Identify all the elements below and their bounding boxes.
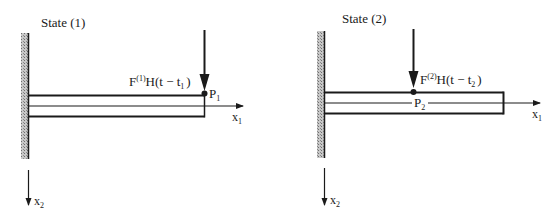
force-label: F(2)H(t − t2) <box>420 72 482 89</box>
cantilever-reciprocity-diagram: State (1) x1 x2 F(1)H(t − t1) P1 State (… <box>0 0 558 224</box>
load-point-dot <box>202 91 208 97</box>
x1-axis-label: x1 <box>532 107 542 123</box>
force-arrow-head-icon <box>409 71 419 88</box>
x2-axis-label: x2 <box>330 193 340 209</box>
force-label: F(1)H(t − t1) <box>129 74 191 91</box>
panel-state-1: State (1) x1 x2 F(1)H(t − t1) P1 <box>21 15 243 210</box>
panel-state-2: State (2) x1 x2 F(2)H(t − t2) P2 <box>317 11 542 209</box>
panel-title: State (2) <box>342 11 386 26</box>
fixed-wall-hatch <box>317 31 324 158</box>
point-label: P2 <box>414 95 425 112</box>
point-label: P1 <box>209 86 220 103</box>
force-arrow-head-icon <box>200 74 210 91</box>
x2-axis-label: x2 <box>34 194 44 210</box>
x1-axis-label: x1 <box>232 110 242 126</box>
panel-title: State (1) <box>41 15 85 30</box>
fixed-wall-hatch <box>21 33 28 159</box>
